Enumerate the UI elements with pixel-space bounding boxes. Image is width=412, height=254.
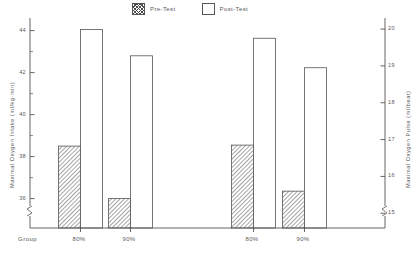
bar-post-test (131, 56, 153, 228)
bars-layer (59, 30, 327, 228)
bar-pre-test (59, 146, 81, 228)
bar-post-test (81, 30, 103, 228)
bar-pre-test (109, 199, 131, 228)
bar-post-test (305, 68, 327, 228)
bar-post-test (254, 38, 276, 228)
chart-plot-area (0, 0, 412, 254)
bar-pre-test (232, 145, 254, 228)
bar-pre-test (283, 191, 305, 228)
chart-figure: Pre-Test Post-Test Maximal Oxygen Intake… (0, 0, 412, 254)
